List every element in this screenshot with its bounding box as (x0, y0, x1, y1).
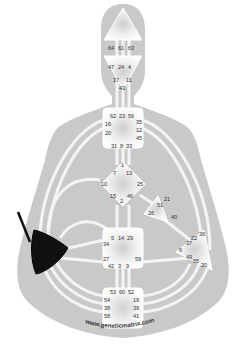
gate-34: 34 (103, 241, 109, 247)
gate-20: 20 (105, 130, 111, 136)
gate-2: 2 (120, 198, 123, 204)
gate-10: 10 (101, 181, 107, 187)
bodygraph-chart: 64 61 63 47 24 4 17 11 43 62 23 56 16 35… (0, 0, 247, 353)
gate-52: 52 (128, 289, 134, 295)
gate-41: 41 (133, 313, 139, 319)
gate-24: 24 (118, 64, 124, 70)
gate-54: 54 (104, 297, 110, 303)
gate-58: 58 (104, 313, 110, 319)
gate-46: 46 (127, 193, 133, 199)
gate-7: 7 (113, 170, 116, 176)
gate-53: 53 (110, 289, 116, 295)
gate-36: 36 (199, 231, 205, 237)
gate-37: 37 (186, 240, 192, 246)
gate-1: 1 (121, 162, 124, 168)
gate-33: 33 (126, 143, 132, 149)
gate-8: 8 (120, 143, 123, 149)
gate-59: 59 (135, 256, 141, 262)
gate-51: 51 (157, 202, 163, 208)
gate-5: 5 (111, 235, 114, 241)
gate-49: 49 (186, 254, 192, 260)
gate-43: 43 (119, 85, 125, 91)
gate-30: 30 (201, 262, 207, 268)
gate-19: 19 (133, 297, 139, 303)
gate-29: 29 (127, 235, 133, 241)
gate-56: 56 (128, 113, 134, 119)
gate-62: 62 (110, 113, 116, 119)
gate-23: 23 (119, 113, 125, 119)
gate-38: 38 (104, 305, 110, 311)
gate-35: 35 (136, 119, 142, 125)
gate-21: 21 (164, 196, 170, 202)
gate-12: 12 (136, 127, 142, 133)
gate-31: 31 (111, 143, 117, 149)
gate-4: 4 (128, 64, 131, 70)
gate-64: 64 (108, 45, 114, 51)
gate-16: 16 (105, 121, 111, 127)
gate-15: 15 (110, 193, 116, 199)
gate-42: 42 (108, 263, 114, 269)
gate-25: 25 (137, 181, 143, 187)
gate-13: 13 (126, 170, 132, 176)
gate-11: 11 (126, 77, 132, 83)
gate-3: 3 (118, 263, 121, 269)
gate-60: 60 (119, 289, 125, 295)
gate-27: 27 (103, 256, 109, 262)
gate-45: 45 (136, 135, 142, 141)
gate-9: 9 (126, 263, 129, 269)
gate-55: 55 (193, 258, 199, 264)
gate-40: 40 (171, 214, 177, 220)
gate-63: 63 (128, 45, 134, 51)
gate-61: 61 (118, 45, 124, 51)
gate-39: 39 (133, 305, 139, 311)
gate-6: 6 (179, 247, 182, 253)
gate-17: 17 (113, 77, 119, 83)
gate-26: 26 (148, 210, 154, 216)
sacral-center (103, 228, 143, 268)
gate-14: 14 (118, 235, 124, 241)
gate-47: 47 (108, 64, 114, 70)
